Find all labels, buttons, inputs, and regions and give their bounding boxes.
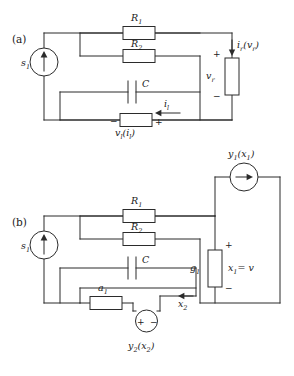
label-vr-a: vr <box>206 70 215 84</box>
sign-x1-minus-b: − <box>225 283 233 293</box>
panel-b-label: (b) <box>12 216 27 228</box>
ccs-y1-b <box>230 163 258 191</box>
current-arrow-ir-a <box>229 40 235 56</box>
sign-y2-plus-b: + <box>137 317 145 327</box>
label-vl-a: vl(il) <box>115 127 135 141</box>
label-c-a: C <box>142 78 150 89</box>
label-a1-b: a1 <box>98 282 108 296</box>
label-g1-b: g1 <box>190 262 200 276</box>
capacitor-c-a <box>128 81 136 103</box>
resistor-r1-b <box>123 210 155 223</box>
label-ir-a: ir(vr) <box>237 39 259 53</box>
label-x1-b: x1= v <box>228 262 254 276</box>
resistor-a1-b <box>90 297 122 310</box>
resistor-r1-a <box>123 27 155 40</box>
sign-vr-plus-a: + <box>213 49 221 59</box>
label-y2-b: y2(x2) <box>127 340 155 354</box>
label-c-b: C <box>142 254 150 265</box>
circuit-svg: (a) s1 <box>0 0 294 376</box>
label-r1-a: R1 <box>130 12 142 26</box>
resistor-g1-b <box>208 250 222 287</box>
sign-y2-minus-b: − <box>150 317 158 327</box>
current-source-s1-b <box>30 231 58 259</box>
label-s1-b: s1 <box>21 240 30 254</box>
label-r1-b: R1 <box>130 195 142 209</box>
circuit-figure: (a) s1 <box>0 0 294 376</box>
sign-x1-plus-b: + <box>225 240 233 250</box>
inductor-vl-a <box>120 114 152 127</box>
label-il-a: il <box>164 98 169 112</box>
panel-a: (a) s1 <box>12 12 259 141</box>
resistor-vr-a <box>225 58 239 95</box>
cvs-y2-b: + − <box>136 310 158 332</box>
sign-vr-minus-a: − <box>213 91 221 101</box>
capacitor-c-b <box>128 257 136 279</box>
panel-b: (b) <box>12 148 280 354</box>
label-x2-b: x2 <box>178 298 188 312</box>
label-y1-b: y1(x1) <box>227 148 255 162</box>
sign-vl-minus-a: − <box>110 116 118 126</box>
panel-a-label: (a) <box>12 33 26 45</box>
label-s1-a: s1 <box>21 57 30 71</box>
sign-vl-plus-a: + <box>155 117 163 127</box>
current-source-s1-a <box>30 48 58 76</box>
